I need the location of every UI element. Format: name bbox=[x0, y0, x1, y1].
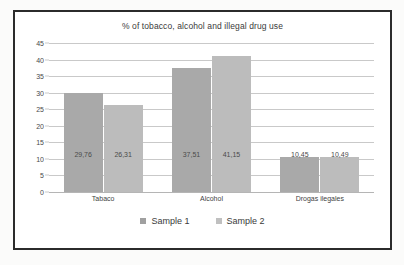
legend-swatch-icon bbox=[216, 218, 222, 224]
bar-value-label: 10,49 bbox=[331, 151, 349, 158]
y-axis-tick-label: 15 bbox=[36, 139, 44, 146]
bar-value-label: 41,15 bbox=[223, 151, 241, 158]
bar-value-label: 37,51 bbox=[183, 151, 201, 158]
y-axis-tick-label: 20 bbox=[36, 122, 44, 129]
bar-value-label: 26,31 bbox=[114, 151, 132, 158]
bar-value-label: 29,76 bbox=[74, 151, 92, 158]
y-axis-tick-label: 35 bbox=[36, 73, 44, 80]
category-label-3: Drogas ilegales bbox=[280, 195, 359, 202]
y-axis-tick-label: 30 bbox=[36, 89, 44, 96]
bar[interactable]: 29,76 bbox=[64, 93, 103, 192]
legend-label: Sample 2 bbox=[227, 216, 265, 226]
bar-chart: % of tobacco, alcohol and illegal drug u… bbox=[15, 12, 390, 248]
bar-group: 37,5141,15 bbox=[172, 43, 251, 192]
bar[interactable]: 10,49 bbox=[320, 157, 359, 192]
chart-frame: % of tobacco, alcohol and illegal drug u… bbox=[13, 10, 392, 250]
plot-area: 051015202530354045 29,7626,3137,5141,151… bbox=[49, 43, 374, 192]
y-axis-tick-label: 5 bbox=[40, 172, 44, 179]
y-axis-tick-label: 40 bbox=[36, 56, 44, 63]
bar-group: 10,4510,49 bbox=[280, 43, 359, 192]
bar[interactable]: 26,31 bbox=[104, 105, 143, 192]
gridline bbox=[49, 192, 374, 193]
y-axis-tick-label: 0 bbox=[40, 189, 44, 196]
legend-item-1[interactable]: Sample 1 bbox=[140, 216, 189, 226]
category-label-2: Alcohol bbox=[172, 195, 251, 202]
bar-value-label: 10,45 bbox=[291, 151, 309, 158]
bar[interactable]: 41,15 bbox=[212, 56, 251, 192]
category-axis: TabacoAlcoholDrogas ilegales bbox=[49, 195, 374, 202]
y-axis-tick-label: 10 bbox=[36, 155, 44, 162]
bar-group: 29,7626,31 bbox=[64, 43, 143, 192]
legend-swatch-icon bbox=[140, 218, 146, 224]
category-label-1: Tabaco bbox=[64, 195, 143, 202]
y-axis-tick-label: 45 bbox=[36, 40, 44, 47]
bar-groups: 29,7626,3137,5141,1510,4510,49 bbox=[49, 43, 374, 192]
chart-legend: Sample 1Sample 2 bbox=[15, 216, 390, 226]
legend-item-2[interactable]: Sample 2 bbox=[216, 216, 265, 226]
legend-label: Sample 1 bbox=[151, 216, 189, 226]
y-axis-tick-label: 25 bbox=[36, 106, 44, 113]
bar[interactable]: 37,51 bbox=[172, 68, 211, 192]
bar[interactable]: 10,45 bbox=[280, 157, 319, 192]
chart-title: % of tobacco, alcohol and illegal drug u… bbox=[15, 21, 390, 31]
